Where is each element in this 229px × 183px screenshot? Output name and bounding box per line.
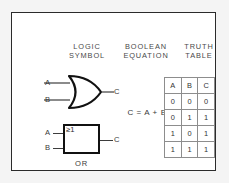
truth-table: A B C 0 0 0 0 1 1 1 0: [164, 77, 215, 158]
distinctive-output-c-label: C: [114, 88, 119, 96]
cell-c: 1: [198, 126, 215, 142]
table-row: 0 1 1: [165, 110, 215, 126]
cell-c: 1: [198, 110, 215, 126]
iec-input-b-label: B: [45, 144, 50, 152]
truth-table-header-b: B: [181, 78, 198, 94]
heading-boolean-equation: BOOLEAN EQUATION: [117, 42, 175, 60]
table-row: 1 1 1: [165, 142, 215, 158]
iec-qualifier-label: ≥1: [66, 126, 74, 134]
cell-a: 0: [165, 110, 182, 126]
truth-table-header-row: A B C: [165, 78, 215, 94]
figure-frame: LOGIC SYMBOL BOOLEAN EQUATION TRUTH TABL…: [11, 12, 216, 171]
iec-output-c-wire: [100, 140, 113, 141]
cell-c: 0: [198, 94, 215, 110]
distinctive-input-b-label: B: [45, 96, 50, 104]
heading-logic-symbol: LOGIC SYMBOL: [59, 42, 115, 60]
distinctive-input-a-label: A: [45, 79, 50, 87]
cell-a: 0: [165, 94, 182, 110]
logic-gate-figure: LOGIC SYMBOL BOOLEAN EQUATION TRUTH TABL…: [0, 0, 229, 183]
heading-truth-table: TRUTH TABLE: [174, 42, 224, 60]
truth-table-header-a: A: [165, 78, 182, 94]
table-row: 0 0 0: [165, 94, 215, 110]
table-row: 1 0 1: [165, 126, 215, 142]
truth-table-header-c: C: [198, 78, 215, 94]
cell-b: 1: [181, 142, 198, 158]
gate-name-caption: OR: [63, 159, 100, 168]
or-gate-distinctive-symbol: [44, 72, 120, 114]
iec-input-a-label: A: [45, 129, 50, 137]
cell-b: 0: [181, 94, 198, 110]
cell-a: 1: [165, 126, 182, 142]
cell-a: 1: [165, 142, 182, 158]
cell-b: 0: [181, 126, 198, 142]
iec-output-c-label: C: [114, 136, 119, 144]
or-gate-shape-icon: [44, 72, 120, 114]
cell-b: 1: [181, 110, 198, 126]
cell-c: 1: [198, 142, 215, 158]
